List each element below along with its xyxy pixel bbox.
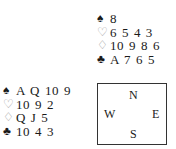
heart-icon: ♡: [97, 26, 110, 40]
compass-box: N W E S: [97, 83, 167, 145]
club-icon: ♣: [97, 53, 110, 67]
west-spades-cards: A Q 10 9: [16, 84, 71, 98]
west-clubs-row: ♣ 10 4 3: [3, 125, 71, 139]
heart-icon: ♡: [3, 98, 16, 112]
west-spades-row: ♠ A Q 10 9: [3, 84, 71, 98]
west-hearts-cards: 10 9 2: [16, 98, 54, 112]
north-clubs-cards: A 7 6 5: [110, 53, 155, 67]
north-hand: ♠ 8 ♡ 6 5 4 3 ♢ 10 9 8 6 ♣ A 7 6 5: [97, 12, 160, 66]
north-spades-cards: 8: [110, 12, 117, 26]
compass-north-label: N: [129, 89, 138, 101]
spade-icon: ♠: [97, 12, 110, 26]
north-clubs-row: ♣ A 7 6 5: [97, 53, 160, 67]
club-icon: ♣: [3, 125, 16, 139]
compass-south-label: S: [130, 128, 137, 140]
west-hearts-row: ♡ 10 9 2: [3, 98, 71, 112]
north-spades-row: ♠ 8: [97, 12, 160, 26]
west-diamonds-row: ♢ Q J 5: [3, 111, 71, 125]
compass-east-label: E: [152, 108, 159, 120]
north-hearts-row: ♡ 6 5 4 3: [97, 26, 160, 40]
west-diamonds-cards: Q J 5: [16, 111, 48, 125]
west-hand: ♠ A Q 10 9 ♡ 10 9 2 ♢ Q J 5 ♣ 10 4 3: [3, 84, 71, 138]
west-clubs-cards: 10 4 3: [16, 125, 54, 139]
north-hearts-cards: 6 5 4 3: [110, 26, 153, 40]
diamond-icon: ♢: [97, 39, 110, 53]
north-diamonds-cards: 10 9 8 6: [110, 39, 160, 53]
spade-icon: ♠: [3, 84, 16, 98]
diamond-icon: ♢: [3, 111, 16, 125]
north-diamonds-row: ♢ 10 9 8 6: [97, 39, 160, 53]
compass-west-label: W: [104, 108, 115, 120]
